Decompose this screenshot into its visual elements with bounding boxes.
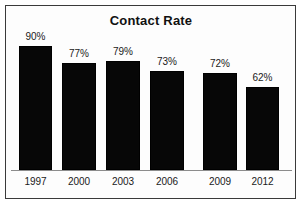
bar-value-label: 90% [19,31,52,42]
bar-group-2003: 79% 2003 [106,0,140,205]
bar-group-2006: 73% 2006 [150,0,184,205]
chart-screenshot: Contact Rate 90% 1997 77% 2000 79% 2003 … [0,0,302,205]
bar-1997[interactable] [19,46,52,170]
bar-value-label: 62% [246,72,279,83]
bar-group-1997: 90% 1997 [19,0,52,205]
x-tick-label-2000: 2000 [62,176,96,187]
bar-2009[interactable] [203,73,237,170]
bar-2006[interactable] [150,71,184,170]
x-tick-label-1997: 1997 [19,176,52,187]
bar-value-label: 72% [203,58,237,69]
x-tick-label-2006: 2006 [150,176,184,187]
bar-value-label: 79% [106,46,140,57]
bar-group-2012: 62% 2012 [246,0,279,205]
bar-2003[interactable] [106,61,140,170]
bar-2000[interactable] [62,63,96,170]
bar-group-2009: 72% 2009 [203,0,237,205]
bar-group-2000: 77% 2000 [62,0,96,205]
x-tick-label-2003: 2003 [106,176,140,187]
bar-value-label: 77% [62,48,96,59]
plot-area: 90% 1997 77% 2000 79% 2003 73% 2006 72% … [0,0,302,205]
x-tick-label-2009: 2009 [203,176,237,187]
x-tick-label-2012: 2012 [246,176,279,187]
bar-value-label: 73% [150,56,184,67]
bar-2012[interactable] [246,87,279,170]
